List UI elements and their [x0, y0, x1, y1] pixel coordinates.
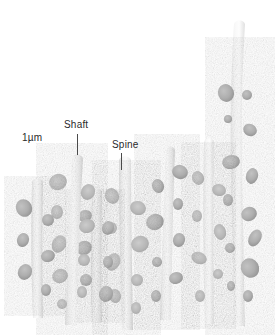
dendrite-group: [13, 20, 265, 330]
spine-leader-line: [121, 153, 122, 170]
shaft-leader-line: [77, 134, 78, 155]
dendrite-4: [103, 156, 152, 330]
dendrite-5: [143, 146, 189, 320]
dendrite-reconstruction-figure: [0, 0, 279, 335]
dendrite-2: [47, 154, 98, 325]
shaft-label: Shaft: [64, 120, 88, 130]
scale-bar-label: 1µm: [22, 133, 42, 143]
dendrite-1: [13, 178, 56, 318]
dendrite-svg: [0, 0, 279, 335]
dendrite-7: [216, 20, 265, 326]
spine-label: Spine: [112, 140, 139, 150]
dendrite-6: [189, 138, 228, 324]
